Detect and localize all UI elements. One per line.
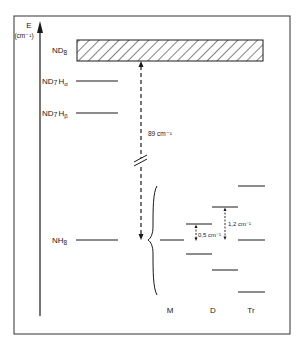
nd8-label: ND8 — [52, 46, 68, 56]
break-mark-icon — [134, 155, 147, 162]
nh8-label: NH8 — [52, 236, 68, 246]
d-gap-label: 0,5 cm⁻¹ — [198, 232, 221, 238]
tr-gap-arrow-down-icon — [224, 237, 227, 241]
tr-gap-arrow-up-icon — [224, 208, 227, 212]
axis-label-e: E — [26, 21, 31, 30]
axis-unit: (cm⁻¹) — [14, 32, 33, 40]
d-gap-arrow-up-icon — [195, 225, 198, 229]
nd7hb-label: ND7Hβ — [42, 109, 68, 119]
gap-label: 89 cm⁻¹ — [148, 130, 173, 137]
column-label-tr: Tr — [247, 306, 255, 315]
column-label-d: D — [210, 306, 216, 315]
nd8-band — [77, 40, 263, 61]
break-mark-icon-2 — [134, 159, 147, 166]
nd7ha-label: ND7Hα — [42, 77, 68, 87]
arrow-up-icon — [139, 61, 144, 67]
energy-level-diagram: E (cm⁻¹) ND8 ND7Hα ND7Hβ NH8 89 cm⁻¹ 0,5… — [0, 0, 297, 351]
tr-gap-label: 1,2 cm⁻¹ — [228, 221, 251, 227]
arrow-down-icon — [139, 234, 144, 240]
column-label-m: M — [167, 306, 174, 315]
figure-frame — [14, 16, 290, 334]
brace-icon — [148, 186, 157, 295]
d-gap-arrow-down-icon — [195, 238, 198, 242]
axis-arrow-icon — [37, 21, 43, 33]
